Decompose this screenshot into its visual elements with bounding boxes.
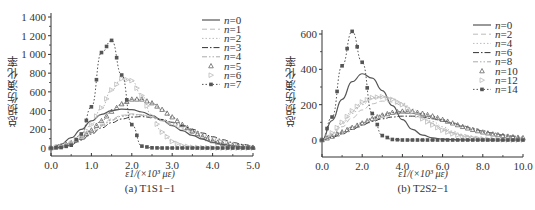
series-n-2 — [322, 101, 523, 140]
x-tick-label: 5.0 — [246, 159, 260, 171]
y-tick-label: 600 — [301, 28, 318, 40]
legend: n=0n=1n=2n=3n=4n=5n=6n=7 — [202, 14, 242, 90]
y-tick-label: 200 — [301, 99, 318, 111]
x-tick-label: 10.0 — [513, 160, 533, 172]
y-tick-label: 1 200 — [21, 30, 46, 42]
y-tick-label: 0 — [41, 142, 47, 154]
legend: n=0n=2n=4n=6n=8n=10n=12n=14 — [473, 19, 518, 95]
x-axis-title: ε1/(×10³ με) — [80, 168, 220, 179]
x-axis-title: ε1/(×10³ με) — [353, 168, 493, 179]
y-tick-label: 400 — [301, 63, 318, 75]
chart-caption: (b) T2S2−1 — [353, 182, 493, 194]
legend-label: n=7 — [224, 78, 242, 90]
y-tick-label: 400 — [30, 105, 47, 117]
y-tick-label: 600 — [30, 86, 47, 98]
legend-item: n=14 — [473, 83, 518, 95]
y-tick-label: 200 — [30, 123, 47, 135]
y-tick-label: 0 — [312, 134, 318, 146]
series-n-5 — [49, 97, 256, 150]
y-tick-label: 1 000 — [21, 48, 46, 60]
x-tick-label: 0.0 — [44, 159, 58, 171]
legend-label: n=14 — [495, 83, 518, 95]
y-tick-label: 800 — [30, 67, 47, 79]
series-n-0 — [322, 74, 523, 140]
chart-panel-a: 总损伤演化率 02004006008001 0001 2001 4000.01.… — [0, 0, 268, 210]
y-tick-label: 1 400 — [21, 11, 46, 23]
series-n-10 — [320, 109, 526, 142]
legend-item: n=7 — [202, 78, 242, 90]
series-n-1 — [51, 114, 253, 148]
chart-panel-b: 总损伤演化率 02004006000.02.04.06.08.010.0n=0n… — [268, 0, 535, 210]
x-tick-label: 0.0 — [315, 160, 329, 172]
chart-caption: (a) T1S1−1 — [80, 182, 220, 194]
